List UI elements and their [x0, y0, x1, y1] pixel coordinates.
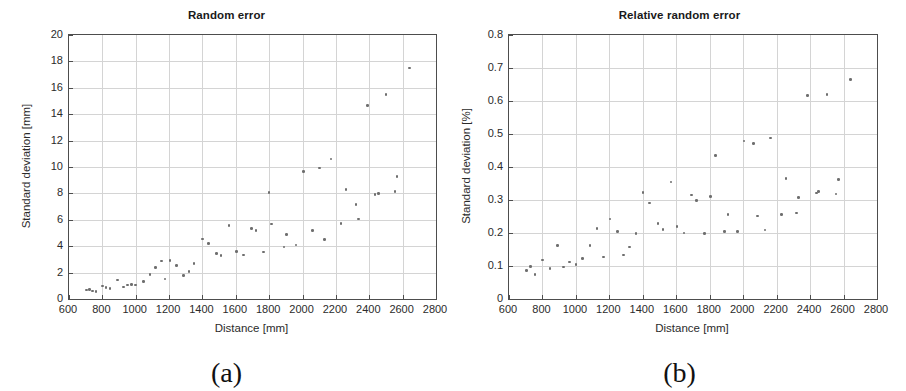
y-tick-label: 14 — [51, 107, 63, 119]
y-tick-label: 6 — [57, 213, 63, 225]
data-point — [648, 202, 651, 205]
data-point — [355, 203, 358, 206]
data-point — [676, 225, 679, 228]
figure-container: Random error (a) 60080010001200140016001… — [0, 0, 906, 391]
data-point — [154, 266, 157, 269]
y-axis-tick — [69, 114, 73, 115]
y-tick-label: 0.4 — [488, 160, 503, 172]
data-point — [817, 190, 820, 193]
x-axis-tick — [676, 295, 677, 299]
data-point — [562, 266, 565, 269]
y-axis-tick — [509, 266, 513, 267]
data-point — [302, 170, 305, 173]
data-point — [201, 238, 204, 241]
gridline-horizontal — [69, 246, 436, 247]
data-point — [235, 250, 238, 253]
gridline-horizontal — [69, 88, 436, 89]
x-axis-tick — [810, 295, 811, 299]
data-point — [837, 178, 840, 181]
y-tick-label: 0.2 — [488, 226, 503, 238]
data-point — [628, 246, 631, 249]
data-point — [602, 256, 605, 259]
x-tick-label: 2800 — [423, 303, 447, 315]
x-tick-label: 800 — [532, 303, 550, 315]
data-point — [255, 229, 258, 232]
y-tick-label: 0.5 — [488, 127, 503, 139]
y-axis-tick — [509, 35, 513, 36]
gridline-horizontal — [69, 141, 436, 142]
data-point — [752, 142, 755, 145]
data-point — [581, 257, 584, 260]
y-axis-tick — [69, 273, 73, 274]
y-tick-label: 18 — [51, 54, 63, 66]
data-point — [727, 213, 730, 216]
data-point — [228, 224, 231, 227]
data-point — [596, 227, 599, 230]
y-axis-tick — [69, 299, 73, 300]
y-tick-label: 0.6 — [488, 94, 503, 106]
data-point — [175, 264, 178, 267]
data-point — [91, 290, 94, 293]
y-tick-label: 4 — [57, 239, 63, 251]
x-axis-tick — [542, 295, 543, 299]
data-point — [193, 262, 196, 265]
gridline-horizontal — [509, 167, 877, 168]
x-tick-label: 1800 — [256, 303, 280, 315]
x-axis-title: Distance [mm] — [215, 322, 289, 334]
data-point — [220, 254, 223, 257]
data-point — [714, 154, 717, 157]
data-point — [806, 94, 809, 97]
x-tick-label: 1000 — [563, 303, 587, 315]
data-point — [169, 259, 172, 262]
data-point — [690, 194, 693, 197]
plot-area-a — [68, 34, 437, 300]
y-tick-label: 0.8 — [488, 28, 503, 40]
data-point — [126, 284, 129, 287]
data-point — [785, 177, 788, 180]
y-tick-label: 0 — [497, 292, 503, 304]
y-tick-label: 0.3 — [488, 193, 503, 205]
data-point — [670, 181, 673, 184]
x-axis-tick — [202, 295, 203, 299]
x-tick-label: 1400 — [189, 303, 213, 315]
y-axis-tick — [509, 299, 513, 300]
y-axis-tick — [69, 35, 73, 36]
data-point — [285, 233, 288, 236]
y-tick-label: 16 — [51, 81, 63, 93]
data-point — [385, 93, 388, 96]
data-point — [826, 93, 829, 96]
x-axis-tick — [269, 295, 270, 299]
chart-title-b: Relative random error — [453, 9, 906, 21]
x-tick-label: 800 — [92, 303, 110, 315]
gridline-horizontal — [509, 134, 877, 135]
gridline-horizontal — [509, 101, 877, 102]
y-axis-tick — [509, 233, 513, 234]
x-axis-tick — [844, 295, 845, 299]
x-tick-label: 2800 — [864, 303, 888, 315]
gridline-horizontal — [509, 200, 877, 201]
y-axis-tick — [509, 167, 513, 168]
x-axis-tick — [743, 295, 744, 299]
data-point — [215, 252, 218, 255]
data-point — [662, 228, 665, 231]
data-point — [568, 261, 571, 264]
panel-relative-random-error: Relative random error (b) 60080010001200… — [453, 0, 906, 391]
data-point — [95, 290, 98, 293]
data-point — [270, 223, 273, 226]
y-axis-tick — [509, 134, 513, 135]
data-point — [142, 280, 145, 283]
y-axis-title: Standard deviation [mm] — [20, 104, 32, 229]
data-point — [330, 158, 333, 161]
data-point — [182, 274, 185, 277]
y-tick-label: 0.7 — [488, 61, 503, 73]
x-tick-label: 2400 — [356, 303, 380, 315]
y-axis-tick — [69, 88, 73, 89]
gridline-horizontal — [509, 233, 877, 234]
data-point — [797, 196, 800, 199]
data-point — [130, 283, 133, 286]
gridline-horizontal — [69, 167, 436, 168]
data-point — [116, 279, 119, 282]
data-point — [525, 269, 528, 272]
x-axis-tick — [777, 295, 778, 299]
y-axis-tick — [69, 193, 73, 194]
